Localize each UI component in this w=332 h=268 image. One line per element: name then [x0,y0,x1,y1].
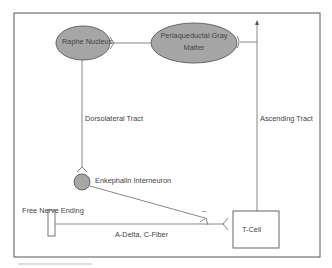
inhibitory-sign: – [202,206,206,215]
ascending-tract-label: Ascending Tract [260,114,313,123]
dorsolateral-tract-label: Dorsolateral Tract [85,114,143,123]
t-cell-label: T-Cell [242,225,261,234]
pag-label-line2: Matter [157,43,231,52]
afferent-fiber-label: A-Delta, C-Fiber [115,230,168,239]
pag-label-line1: Periaqueductal Gray [157,31,231,40]
free-nerve-ending-label: Free Nerve Ending [22,206,84,215]
enkephalin-interneuron-label: Enkephalin Interneuron [95,176,171,185]
inhibitory-connector [90,186,205,218]
raphe-nucleus-label: Raphe Nucleus [62,37,112,46]
pain-pathway-diagram [0,0,332,268]
enkephalin-interneuron-node [74,174,90,190]
arrow-up-icon [255,20,259,25]
